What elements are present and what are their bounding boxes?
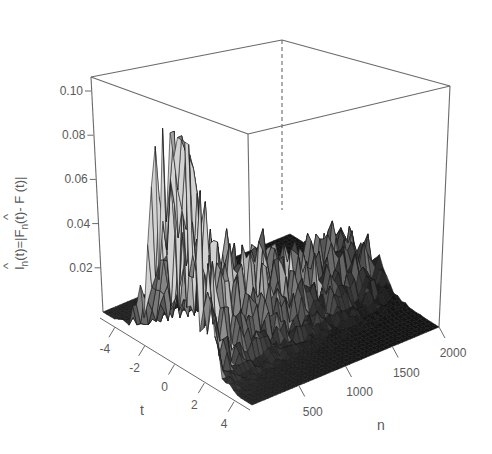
t-tick-label: -2 bbox=[129, 361, 140, 375]
n-tick bbox=[392, 347, 398, 358]
t-tick-label: -4 bbox=[100, 342, 111, 356]
n-tick-label: 500 bbox=[303, 405, 323, 419]
n-tick bbox=[299, 386, 305, 397]
zlabel-lhs-arg: (t)=| bbox=[12, 238, 27, 261]
box-front bbox=[91, 77, 450, 250]
t-tick-label: 0 bbox=[161, 380, 168, 394]
n-tick-label: 1000 bbox=[346, 385, 373, 399]
z-tick-label: 0.02 bbox=[69, 261, 93, 275]
z-axis: 0.020.040.060.080.10 bbox=[60, 84, 101, 275]
zlabel-rhs: F bbox=[12, 230, 27, 238]
svg-text:In(t)=|Fn(t)- F (t)|: In(t)=|Fn(t)- F (t)| bbox=[12, 177, 30, 270]
n-axis-label: n bbox=[377, 417, 385, 433]
t-tick bbox=[228, 402, 234, 412]
t-tick-label: 2 bbox=[191, 398, 198, 412]
n-tick-label: 2000 bbox=[440, 346, 467, 360]
z-tick-label: 0.10 bbox=[60, 84, 84, 98]
surface-plot: 0.020.040.060.080.10 -4-2024 50010001500… bbox=[0, 0, 492, 454]
n-tick-label: 1500 bbox=[393, 366, 420, 380]
zlabel-hat-2: ^ bbox=[0, 213, 15, 220]
zlabel-hat-1: ^ bbox=[0, 262, 15, 269]
z-tick-label: 0.08 bbox=[62, 128, 86, 142]
n-tick bbox=[346, 366, 352, 377]
n-tick bbox=[439, 327, 445, 338]
z-axis-label: In(t)=|Fn(t)- F (t)| ^ ^ bbox=[0, 177, 30, 270]
t-tick bbox=[139, 346, 145, 356]
z-tick-label: 0.04 bbox=[67, 217, 91, 231]
t-tick bbox=[109, 327, 115, 337]
z-tick-label: 0.06 bbox=[64, 172, 88, 186]
t-tick bbox=[169, 365, 175, 375]
t-tick-label: 4 bbox=[221, 417, 228, 431]
t-axis-label: t bbox=[140, 402, 144, 418]
surface-mesh bbox=[103, 128, 439, 405]
t-tick bbox=[198, 383, 204, 393]
